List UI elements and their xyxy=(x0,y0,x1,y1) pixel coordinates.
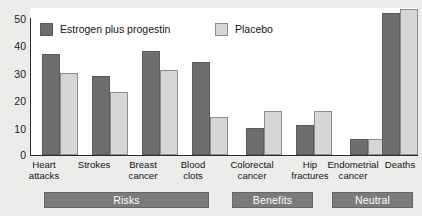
x-tick-line2: cancer xyxy=(120,171,166,182)
y-tick-label-20: 20 xyxy=(2,96,26,107)
legend-swatch-icon-treatment xyxy=(40,23,53,36)
category-band-risks: Risks xyxy=(44,192,209,208)
x-tick-label-deaths: Deaths xyxy=(378,160,422,171)
x-tick-line2: clots xyxy=(171,171,215,182)
x-tick-label-endometrial-cancer: Endometrial cancer xyxy=(320,160,386,181)
x-tick-label-breast-cancer: Breast cancer xyxy=(120,160,166,181)
x-tick-line1: Blood xyxy=(171,160,215,171)
x-tick-line1: Deaths xyxy=(378,160,422,171)
chart-legend: Estrogen plus progestin Placebo xyxy=(0,0,422,40)
x-tick-label-heart-attacks: Heart attacks xyxy=(22,160,66,181)
chart-figure: 50 40 30 20 10 0 xyxy=(0,0,422,216)
legend-swatch-icon-placebo xyxy=(215,23,228,36)
y-tick-label-0: 0 xyxy=(2,150,26,161)
legend-item-estrogen-plus-progestin[interactable]: Estrogen plus progestin xyxy=(40,23,170,36)
bar-blood-clots-treatment xyxy=(192,62,210,155)
bar-strokes-treatment xyxy=(92,76,110,155)
bar-strokes-placebo xyxy=(110,92,128,155)
x-tick-line1: Strokes xyxy=(70,160,118,171)
x-tick-label-strokes: Strokes xyxy=(70,160,118,171)
bar-colorectal-cancer-placebo xyxy=(264,111,282,155)
bar-endometrial-cancer-treatment xyxy=(350,139,368,155)
x-tick-line2: cancer xyxy=(320,171,386,182)
x-tick-line2: attacks xyxy=(22,171,66,182)
bar-heart-attacks-placebo xyxy=(60,73,78,155)
category-band-benefits: Benefits xyxy=(232,192,313,208)
x-axis-line xyxy=(30,155,418,156)
legend-label-treatment: Estrogen plus progestin xyxy=(60,24,170,35)
bar-blood-clots-placebo xyxy=(210,117,228,155)
bar-hip-fractures-placebo xyxy=(314,111,332,155)
y-tick-label-30: 30 xyxy=(2,69,26,80)
legend-item-placebo[interactable]: Placebo xyxy=(215,23,273,36)
x-tick-label-blood-clots: Blood clots xyxy=(171,160,215,181)
y-tick-label-10: 10 xyxy=(2,124,26,135)
x-tick-line1: Heart xyxy=(22,160,66,171)
bar-hip-fractures-treatment xyxy=(296,125,314,155)
x-tick-line1: Colorectal xyxy=(222,160,282,171)
x-tick-line2: cancer xyxy=(222,171,282,182)
category-band-neutral: Neutral xyxy=(332,192,413,208)
x-tick-label-colorectal-cancer: Colorectal cancer xyxy=(222,160,282,181)
y-tick-label-40: 40 xyxy=(2,41,26,52)
bar-heart-attacks-treatment xyxy=(42,54,60,155)
bar-breast-cancer-placebo xyxy=(160,70,178,155)
bar-colorectal-cancer-treatment xyxy=(246,128,264,155)
legend-label-placebo: Placebo xyxy=(235,24,273,35)
x-tick-line1: Endometrial xyxy=(320,160,386,171)
x-tick-line1: Breast xyxy=(120,160,166,171)
bar-breast-cancer-treatment xyxy=(142,51,160,155)
